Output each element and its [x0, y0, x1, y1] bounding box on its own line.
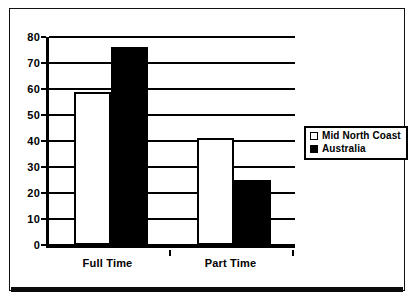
bar-australia-part-time	[234, 180, 271, 245]
bar-mid-north-coast-part-time	[197, 138, 234, 245]
gridline	[49, 62, 295, 64]
x-axis-tick-mark	[292, 250, 294, 256]
legend-item-mid-north-coast[interactable]: Mid North Coast	[310, 131, 401, 141]
bottom-rule	[11, 287, 403, 292]
y-axis-tick-label: 40	[27, 135, 40, 147]
y-axis: 01020304050607080	[0, 37, 40, 248]
x-axis-category-label: Part Time	[205, 257, 257, 269]
bar-mid-north-coast-full-time	[74, 92, 111, 245]
x-axis-tick-mark	[169, 250, 171, 256]
legend-swatch-icon	[310, 145, 318, 153]
legend-swatch-icon	[310, 132, 318, 140]
bar-chart-figure: 01020304050607080 Full TimePart Time Mid…	[0, 0, 415, 307]
y-axis-tick-label: 0	[34, 239, 40, 251]
y-axis-tick-label: 30	[27, 161, 40, 173]
legend: Mid North Coast Australia	[304, 126, 408, 160]
x-axis: Full TimePart Time	[46, 250, 295, 272]
y-axis-tick-label: 10	[27, 213, 40, 225]
gridline	[49, 88, 295, 90]
y-axis-tick-label: 20	[27, 187, 40, 199]
gridline	[49, 36, 295, 38]
bar-australia-full-time	[111, 47, 148, 245]
y-axis-tick-label: 60	[27, 83, 40, 95]
x-axis-category-label: Full Time	[83, 257, 133, 269]
y-axis-tick-label: 50	[27, 109, 40, 121]
y-axis-tick-label: 70	[27, 57, 40, 69]
legend-item-label: Australia	[322, 144, 366, 154]
legend-item-label: Mid North Coast	[322, 131, 401, 141]
y-axis-tick-label: 80	[27, 31, 40, 43]
plot-area	[46, 37, 295, 248]
legend-item-australia[interactable]: Australia	[310, 144, 401, 154]
